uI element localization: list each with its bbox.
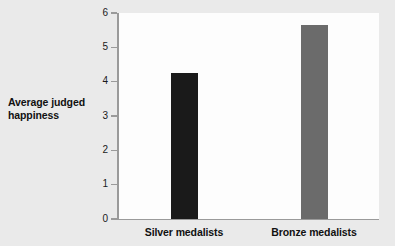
x-axis-label-bronze-medalists: Bronze medalists [254, 226, 374, 238]
bar-silver-medalists [171, 73, 198, 219]
y-axis-tick [111, 12, 117, 13]
y-axis-tick-label: 4 [92, 75, 108, 86]
y-axis-title-line-1: Average judged [8, 96, 104, 109]
bar-bronze-medalists [301, 25, 328, 219]
y-axis-tick-label: 2 [92, 144, 108, 155]
bar-chart: Average judged happiness 0123456 Silver … [0, 0, 395, 246]
y-axis-title: Average judged happiness [8, 96, 104, 122]
y-axis-tick [111, 81, 117, 82]
y-axis-tick-label: 1 [92, 178, 108, 189]
y-axis-tick-label: 0 [92, 213, 108, 224]
x-axis-label-silver-medalists: Silver medalists [124, 226, 244, 238]
y-axis-tick [111, 47, 117, 48]
y-axis-tick-label: 6 [92, 7, 108, 18]
y-axis-tick [111, 218, 117, 219]
bars-layer [119, 13, 379, 219]
y-axis-title-line-2: happiness [8, 109, 104, 122]
y-axis-tick-label: 3 [92, 110, 108, 121]
y-axis-tick [111, 150, 117, 151]
y-axis-tick [111, 184, 117, 185]
y-axis-tick-label: 5 [92, 41, 108, 52]
y-axis-tick [111, 115, 117, 116]
